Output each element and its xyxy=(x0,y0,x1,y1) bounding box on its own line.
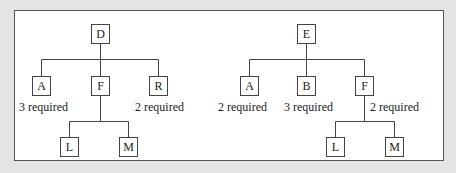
tree2-f-requirement-label: 2 required xyxy=(370,101,419,113)
tree1-node-f: F xyxy=(91,76,110,96)
tree2-node-m: M xyxy=(385,137,404,157)
tree2-node-f: F xyxy=(355,76,374,96)
tree2-node-a: A xyxy=(240,76,259,96)
tree1-a-requirement-label: 3 required xyxy=(19,101,68,113)
tree2-node-b: B xyxy=(297,76,316,96)
tree1-r-requirement-label: 2 required xyxy=(135,101,184,113)
tree1-node-a: A xyxy=(32,76,51,96)
tree1-node-m: M xyxy=(119,137,138,157)
tree2-root-node-e: E xyxy=(297,24,316,44)
tree1-root-node-d: D xyxy=(91,24,110,44)
tree1-node-r: R xyxy=(149,76,168,96)
tree2-b-requirement-label: 3 required xyxy=(284,101,333,113)
tree2-a-requirement-label: 2 required xyxy=(218,101,267,113)
tree1-node-l: L xyxy=(60,137,79,157)
tree2-node-l: L xyxy=(326,137,345,157)
